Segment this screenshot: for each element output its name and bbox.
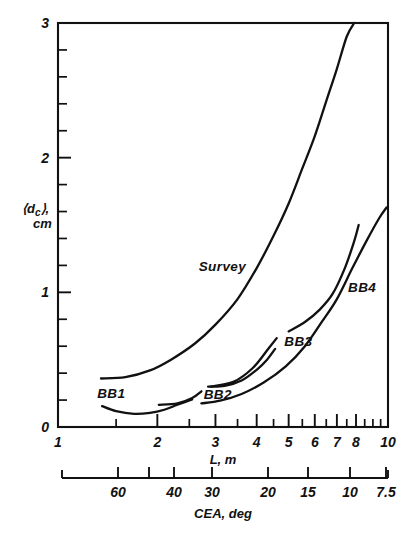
curve-survey bbox=[101, 23, 354, 379]
y-tick-label: 2 bbox=[40, 150, 49, 166]
x-tick-label: 1 bbox=[54, 434, 62, 450]
curve-bb1-steep bbox=[159, 391, 202, 404]
curve-label-bb3: BB3 bbox=[284, 334, 312, 349]
cea-axis-tick-labels: 6040302015107.5 bbox=[110, 484, 396, 500]
curve-bb3 bbox=[201, 207, 386, 403]
y-tick-label: 0 bbox=[41, 419, 49, 435]
x-tick-label: 6 bbox=[311, 434, 319, 450]
x-tick-label: 7 bbox=[333, 434, 342, 450]
x-axis-title: L, m bbox=[210, 452, 237, 467]
y-axis-title-bracket-close: ⟩, bbox=[41, 201, 50, 216]
cea-tick-label: 40 bbox=[165, 484, 182, 500]
cea-tick-label: 30 bbox=[204, 484, 220, 500]
plot-frame bbox=[58, 23, 388, 427]
curve-bb1 bbox=[102, 399, 192, 413]
x-tick-label: 3 bbox=[212, 434, 220, 450]
cea-axis-title: CEA, deg bbox=[194, 506, 252, 521]
y-axis-ticks bbox=[58, 50, 71, 400]
x-tick-label: 2 bbox=[152, 434, 161, 450]
cea-axis-ticks bbox=[118, 467, 386, 478]
y-tick-label: 1 bbox=[41, 284, 49, 300]
x-axis-ticks bbox=[116, 414, 381, 427]
curve-label-bb4: BB4 bbox=[348, 280, 376, 295]
figure-container: 0123 1234567810 ⟨dc⟩, cm L, m 6040302015… bbox=[0, 0, 414, 533]
curve-label-survey: Survey bbox=[199, 259, 248, 274]
curve-label-bb2: BB2 bbox=[204, 387, 232, 402]
data-curves bbox=[101, 23, 387, 414]
cea-tick-label: 10 bbox=[342, 484, 358, 500]
cea-tick-label: 7.5 bbox=[376, 484, 396, 500]
x-tick-label: 10 bbox=[380, 434, 396, 450]
y-tick-label: 3 bbox=[41, 15, 49, 31]
x-tick-label: 5 bbox=[285, 434, 293, 450]
curve-label-bb1: BB1 bbox=[97, 386, 125, 401]
y-axis-title-line2: cm bbox=[33, 216, 52, 231]
chart-svg: 0123 1234567810 ⟨dc⟩, cm L, m 6040302015… bbox=[0, 0, 414, 533]
cea-tick-label: 15 bbox=[300, 484, 316, 500]
cea-tick-label: 20 bbox=[259, 484, 276, 500]
x-axis-tick-labels: 1234567810 bbox=[54, 434, 396, 450]
y-axis-title-bracket-open: ⟨d bbox=[22, 201, 36, 216]
x-tick-label: 8 bbox=[352, 434, 360, 450]
cea-tick-label: 60 bbox=[110, 484, 126, 500]
x-tick-label: 4 bbox=[252, 434, 261, 450]
